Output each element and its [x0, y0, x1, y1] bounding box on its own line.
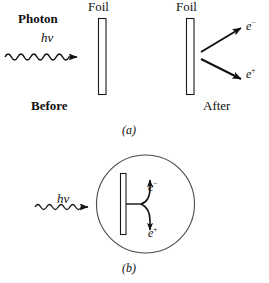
- panel-a-foil-right: [187, 19, 195, 95]
- panel-a-photon-wave-arrow: [5, 54, 77, 60]
- panel-a-positron-arrow: [201, 59, 241, 79]
- panel-b-detail-circle: [97, 155, 195, 253]
- panel-a-foil-left: [99, 19, 107, 95]
- panel-b-electron-curve-arrow: [141, 180, 150, 204]
- panel-b-positron-curve-arrow: [141, 204, 150, 230]
- pair-production-figure: Photon hν Foil Foil Before After e− e+ (…: [0, 0, 269, 283]
- panel-b-photon-wave-arrow: [35, 205, 88, 210]
- figure-graphics: [0, 0, 269, 283]
- panel-b-foil: [121, 174, 127, 235]
- panel-a-electron-arrow: [201, 28, 241, 52]
